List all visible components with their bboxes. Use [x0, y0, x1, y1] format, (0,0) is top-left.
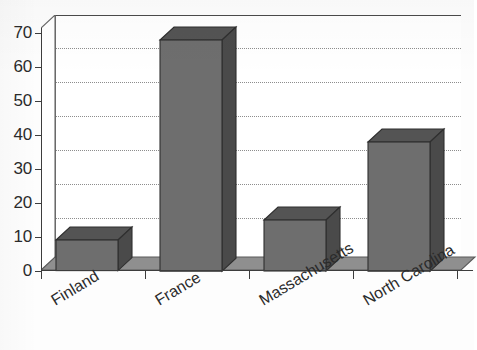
y-tick-label-50: 50 — [13, 91, 32, 111]
y-tick-mark-40 — [35, 135, 42, 136]
y-tick-label-60: 60 — [13, 57, 32, 77]
y-tick-mark-0 — [35, 271, 42, 272]
chart-side-wall — [41, 15, 56, 271]
x-axis-label-france: France — [152, 268, 204, 309]
x-tick-3 — [353, 270, 354, 279]
y-tick-mark-20 — [35, 203, 42, 204]
y-tick-label-30: 30 — [13, 159, 32, 179]
bar-finland[interactable] — [56, 227, 132, 271]
x-tick-1 — [145, 270, 146, 279]
gridline-40 — [56, 116, 461, 117]
y-tick-mark-60 — [35, 67, 42, 68]
gridline-60 — [56, 48, 461, 49]
y-tick-label-0: 0 — [23, 261, 32, 281]
y-tick-mark-10 — [35, 237, 42, 238]
y-axis-line — [41, 28, 42, 271]
y-tick-mark-50 — [35, 101, 42, 102]
x-axis-label-finland: Finland — [48, 267, 102, 309]
y-tick-label-20: 20 — [13, 193, 32, 213]
bar-france[interactable] — [160, 27, 236, 271]
x-tick-4 — [457, 270, 458, 279]
x-tick-2 — [249, 270, 250, 279]
y-tick-label-70: 70 — [13, 23, 32, 43]
y-tick-mark-70 — [35, 33, 42, 34]
y-tick-mark-30 — [35, 169, 42, 170]
plot-area — [41, 15, 461, 271]
y-tick-label-10: 10 — [13, 227, 32, 247]
gridline-50 — [56, 82, 461, 83]
y-tick-label-40: 40 — [13, 125, 32, 145]
